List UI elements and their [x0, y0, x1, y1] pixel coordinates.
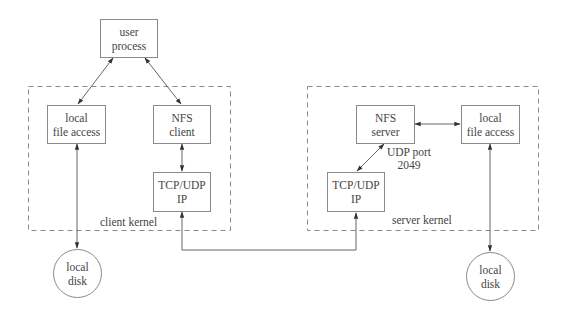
- nfs-server-line2: server: [371, 125, 399, 139]
- nfs-server-line1: NFS: [375, 111, 396, 125]
- edge-server-tcp-to-nfs-server: [357, 144, 384, 171]
- client-tcp-udp-node: TCP/UDP IP: [153, 172, 211, 212]
- nfs-client-line1: NFS: [171, 111, 192, 125]
- client-disk-line1: local: [66, 260, 88, 274]
- client-file-access-line1: local: [65, 111, 87, 125]
- client-kernel-label: client kernel: [100, 216, 157, 229]
- server-local-disk-node: local disk: [466, 252, 515, 301]
- server-tcp-line1: TCP/UDP: [332, 178, 379, 192]
- server-file-access-line1: local: [479, 111, 501, 125]
- edge-user-to-nfs-client: [145, 58, 181, 104]
- client-local-disk-node: local disk: [53, 249, 102, 298]
- server-tcp-line2: IP: [351, 192, 361, 206]
- nfs-client-node: NFS client: [153, 105, 211, 144]
- nfs-server-node: NFS server: [356, 105, 415, 144]
- udp-port-line1: UDP port: [386, 146, 432, 159]
- user-process-line2: process: [112, 39, 147, 53]
- client-tcp-line2: IP: [177, 192, 187, 206]
- client-tcp-line1: TCP/UDP: [158, 178, 205, 192]
- edge-user-to-local-file-access: [78, 58, 113, 104]
- user-process-node: user process: [100, 19, 158, 58]
- server-tcp-udp-node: TCP/UDP IP: [327, 172, 385, 212]
- user-process-line1: user: [119, 25, 138, 39]
- server-file-access-line2: file access: [467, 125, 515, 139]
- client-file-access-line2: file access: [53, 125, 101, 139]
- server-kernel-label: server kernel: [392, 214, 452, 227]
- server-local-file-access-node: local file access: [461, 105, 520, 144]
- client-local-file-access-node: local file access: [47, 105, 106, 144]
- server-disk-line1: local: [479, 263, 501, 277]
- nfs-client-line2: client: [169, 125, 195, 139]
- server-disk-line2: disk: [481, 277, 500, 291]
- edge-network-link: [182, 212, 356, 250]
- udp-port-line2: 2049: [386, 159, 432, 172]
- udp-port-annotation: UDP port 2049: [386, 146, 432, 172]
- client-disk-line2: disk: [68, 274, 87, 288]
